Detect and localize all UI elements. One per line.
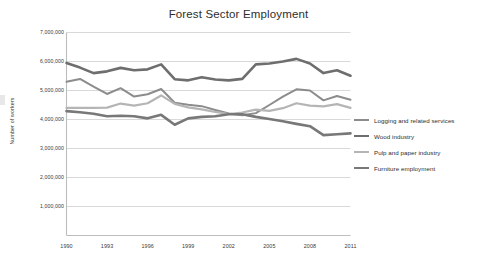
x-tick-label: 2008 xyxy=(293,243,327,249)
legend-item-label: Pulp and paper industry xyxy=(374,149,441,156)
legend-item-1[interactable]: Logging and related services xyxy=(354,112,476,128)
series-line-3 xyxy=(67,95,351,114)
series-line-4 xyxy=(67,111,351,135)
x-tick-label: 1999 xyxy=(171,243,205,249)
chart-legend: Logging and related servicesWood industr… xyxy=(354,112,476,176)
legend-swatch-icon xyxy=(354,119,369,122)
x-tick-label: 2011 xyxy=(334,243,368,249)
x-tick-label: 2002 xyxy=(212,243,246,249)
legend-item-4[interactable]: Furniture employment xyxy=(354,160,476,176)
gridlines xyxy=(67,33,351,207)
legend-item-label: Logging and related services xyxy=(374,117,455,124)
legend-item-3[interactable]: Pulp and paper industry xyxy=(354,144,476,160)
x-tick-label: 1993 xyxy=(90,243,124,249)
legend-item-label: Furniture employment xyxy=(374,165,435,172)
chart-figure: Forest Sector Employment Number of worke… xyxy=(0,0,477,270)
x-tick-label: 2005 xyxy=(252,243,286,249)
data-series-group xyxy=(67,59,351,135)
legend-swatch-icon xyxy=(354,167,369,170)
x-tick-label: 1990 xyxy=(50,243,84,249)
legend-swatch-icon xyxy=(354,151,369,154)
legend-item-2[interactable]: Wood industry xyxy=(354,128,476,144)
legend-item-label: Wood industry xyxy=(374,133,414,140)
legend-swatch-icon xyxy=(354,135,369,138)
x-tick-label: 1996 xyxy=(131,243,165,249)
series-line-2 xyxy=(67,59,351,80)
